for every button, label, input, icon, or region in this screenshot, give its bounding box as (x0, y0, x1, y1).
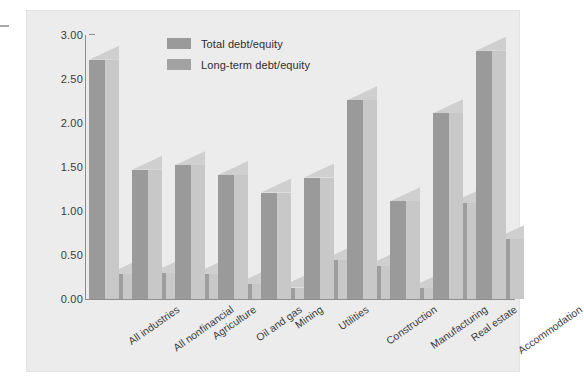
bar-top-face (132, 156, 162, 170)
legend-label: Total debt/equity (201, 38, 283, 50)
x-axis-tick-label: Utilities (336, 303, 371, 332)
y-axis-tick-label: 2.00 (61, 117, 83, 129)
bar-side-face (320, 178, 334, 299)
bar-top-face (390, 187, 420, 201)
bar-top-face (89, 46, 119, 60)
bar-front-face (390, 201, 406, 299)
y-axis-tick: 1.00 (33, 205, 95, 217)
bar-top-face (175, 151, 205, 165)
bar-side-face (105, 60, 119, 299)
bar-side-face (234, 175, 248, 299)
bar-group (390, 35, 438, 299)
bar-front-face (218, 175, 234, 299)
y-axis-tick-label: 2.50 (61, 73, 83, 85)
bar-total-debt-equity[interactable] (390, 201, 406, 299)
bar-total-debt-equity[interactable] (304, 178, 320, 299)
bar-total-debt-equity[interactable] (433, 113, 449, 299)
bar-top-face (347, 86, 377, 100)
bar-total-debt-equity[interactable] (347, 100, 363, 299)
legend-swatch (167, 38, 191, 49)
bar-total-debt-equity[interactable] (261, 193, 277, 299)
bar-top-face (261, 179, 291, 193)
chart-figure: 3.002.502.001.501.000.500.00 Ratio All i… (26, 10, 520, 372)
bar-total-debt-equity[interactable] (218, 175, 234, 299)
page-margin-tick (0, 25, 9, 27)
y-axis-tick-label: 0.00 (61, 293, 83, 305)
x-axis-line (85, 299, 515, 300)
bar-total-debt-equity[interactable] (175, 165, 191, 299)
y-axis-tick-label: 1.00 (61, 205, 83, 217)
bar-group (433, 35, 481, 299)
x-axis-tick-labels: All industriesAll nonfinancialAgricultur… (85, 303, 525, 373)
legend-item[interactable]: Long-term debt/equity (167, 56, 367, 73)
y-axis-tick: 2.00 (33, 117, 95, 129)
bar-total-debt-equity[interactable] (132, 170, 148, 299)
bar-side-face (148, 170, 162, 299)
bar-front-face (132, 170, 148, 299)
y-axis-tick: 0.50 (33, 249, 95, 261)
bar-side-face (449, 113, 463, 299)
y-axis-tick-label: 3.00 (61, 29, 83, 41)
bar-front-face (175, 165, 191, 299)
x-axis-tick-label: Accommodation (516, 303, 584, 356)
bar-side-face (492, 51, 506, 299)
bar-total-debt-equity[interactable] (89, 60, 105, 299)
bar-front-face (89, 60, 105, 299)
bar-side-face (277, 193, 291, 299)
bar-front-face (261, 193, 277, 299)
y-axis-tick: 1.50 (33, 161, 95, 173)
legend-item[interactable]: Total debt/equity (167, 35, 367, 52)
y-axis-tick-label: 1.50 (61, 161, 83, 173)
bar-side-face (406, 201, 420, 299)
y-axis-tick: 2.50 (33, 73, 95, 85)
y-axis-tick-label: 0.50 (61, 249, 83, 261)
bar-top-face (476, 37, 506, 51)
legend-swatch (167, 59, 191, 70)
bar-front-face (476, 51, 492, 299)
bar-side-face (510, 239, 524, 299)
bar-side-face (363, 100, 377, 299)
bar-front-face (433, 113, 449, 299)
chart-legend: Total debt/equityLong-term debt/equity (167, 35, 367, 77)
bar-group (89, 35, 137, 299)
bar-front-face (347, 100, 363, 299)
bar-total-debt-equity[interactable] (476, 51, 492, 299)
bar-group (476, 35, 524, 299)
bar-top-face (218, 161, 248, 175)
y-axis-tick: 3.00 (33, 29, 95, 41)
legend-label: Long-term debt/equity (201, 59, 310, 71)
bar-side-face (191, 165, 205, 299)
bar-top-face (304, 164, 334, 178)
bar-top-face (433, 99, 463, 113)
bar-front-face (304, 178, 320, 299)
